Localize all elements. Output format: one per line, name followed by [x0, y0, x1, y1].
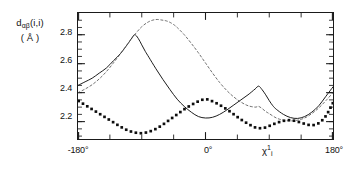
y-axis-label-indices: (i,i)	[30, 17, 44, 28]
series-solid-curve	[78, 35, 333, 119]
x-tick-label-minus180: -180°	[55, 145, 101, 155]
series-dashed-curve	[78, 19, 333, 120]
y-tick-label-2-4: 2.4	[60, 83, 72, 93]
x-axis-subscript: i	[271, 150, 273, 157]
x-axis-label: χ1i	[262, 144, 272, 157]
x-tick-label-180: 180°	[311, 145, 356, 155]
figure-container: dαβ(i,i) ( Å ) 2.8 2.6 2.4 2.2 -180° 0° …	[0, 0, 356, 172]
y-tick-label-2-2: 2.2	[60, 111, 72, 121]
plot-svg	[78, 13, 333, 139]
y-axis-label-subscript: αβ	[22, 22, 30, 29]
series-dotted-curve	[78, 98, 333, 135]
x-tick-label-zero: 0°	[185, 145, 231, 155]
data-series-group	[78, 19, 333, 134]
y-axis-label-units: ( Å )	[2, 31, 58, 45]
plot-area	[77, 12, 334, 140]
y-tick-label-2-8: 2.8	[60, 27, 72, 37]
y-tick-label-2-6: 2.6	[60, 55, 72, 65]
y-axis-label-line1: dαβ(i,i)	[2, 16, 58, 31]
y-axis-label: dαβ(i,i) ( Å )	[2, 16, 58, 45]
